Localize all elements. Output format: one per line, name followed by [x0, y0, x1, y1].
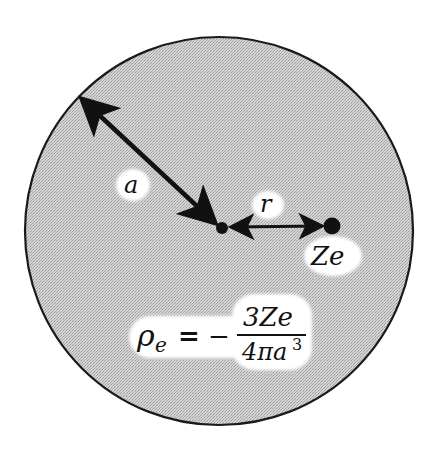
- equals-sign: =: [178, 321, 200, 351]
- sphere-diagram: a r Ze ρ e = − 3Ze 4πa 3: [0, 0, 437, 451]
- charge-label: Ze: [310, 241, 344, 271]
- center-point: [216, 222, 228, 234]
- radius-label: a: [124, 171, 138, 199]
- denominator-exponent: 3: [292, 335, 302, 354]
- diagram-canvas: a r Ze ρ e = − 3Ze 4πa 3: [0, 0, 437, 451]
- rho-symbol: ρ: [136, 318, 155, 353]
- distance-label: r: [260, 190, 273, 218]
- distance-arrow: [232, 226, 321, 227]
- rho-subscript: e: [155, 333, 167, 357]
- denominator: 4πa: [241, 338, 287, 366]
- point-charge: [324, 218, 341, 235]
- numerator: 3Ze: [243, 302, 293, 332]
- minus-sign: −: [208, 321, 230, 351]
